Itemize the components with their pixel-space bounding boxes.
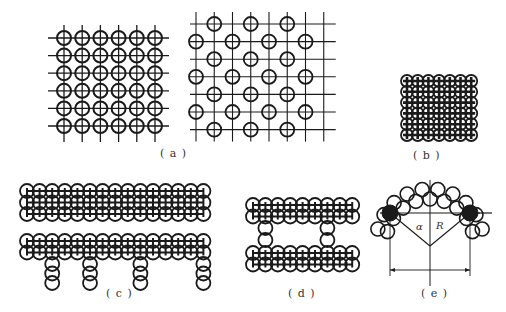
circle [371,222,385,236]
circle [400,187,414,201]
circle [437,194,451,208]
circle [446,187,460,201]
label-a: ( a ) [160,147,187,160]
panel-d-ladder [246,198,359,272]
panel-a-staggered-grid [189,12,336,142]
label-c: ( c ) [106,287,133,300]
label-e: ( e ) [421,287,448,300]
circle [83,276,97,290]
circle [475,222,489,236]
panel-a-dense-grid [48,25,169,142]
panel-b-packed-array [401,75,477,141]
circle [466,225,480,239]
annotation-radius: R [436,220,445,231]
circle [409,194,423,208]
label-b: ( b ) [413,149,441,162]
circle [380,225,394,239]
dim-arrow-right [465,268,470,272]
annotation-alpha: α [416,221,424,232]
circle [45,276,59,290]
panel-e-arc [371,180,492,286]
grid-line [390,213,430,246]
circle [133,276,147,290]
circle [196,276,210,290]
label-d: ( d ) [288,287,316,300]
dim-arrow-left [390,268,395,272]
panel-c-strips [20,184,210,290]
